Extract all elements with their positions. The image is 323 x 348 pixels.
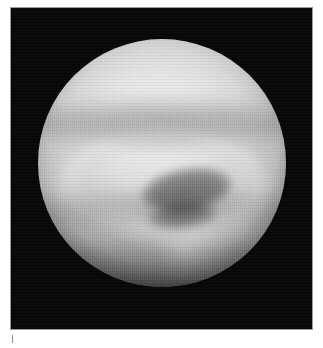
south-polar-shadow-feature (38, 189, 286, 287)
bright-polar-cap-feature (56, 45, 268, 165)
dark-band-lower-feature (38, 191, 286, 229)
dark-band-upper-feature (38, 101, 286, 147)
figure-plate (0, 0, 323, 348)
planet-disc (38, 39, 286, 287)
photograph-frame (10, 7, 313, 330)
dark-spot-secondary-feature (147, 199, 218, 233)
dark-spot-primary-feature (139, 162, 234, 218)
photograph-canvas (11, 8, 312, 329)
bright-chevron-left-feature (83, 190, 199, 262)
limb-darkening-vignette (38, 39, 286, 287)
scanline-texture-overlay (11, 8, 312, 329)
halftone-texture-overlay (11, 8, 312, 329)
bright-chevron-apex-feature (158, 225, 222, 287)
figure-caption (10, 334, 315, 346)
bright-chevron-right-feature (167, 190, 283, 262)
bright-equatorial-collar-feature (60, 131, 266, 235)
caption-rule-mark (12, 335, 13, 343)
